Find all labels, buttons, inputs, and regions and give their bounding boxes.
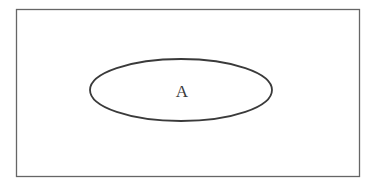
set-a-label: A [176, 82, 189, 101]
venn-diagram: A [0, 0, 381, 180]
